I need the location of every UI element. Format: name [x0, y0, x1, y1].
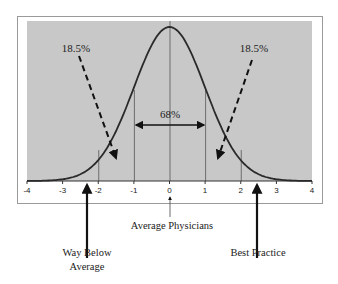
left-tail-percent-label: 18.5% [62, 42, 90, 54]
right-tail-percent-label: 18.5% [240, 42, 268, 54]
x-tick-label: 1 [203, 186, 208, 195]
x-tick-label: 3 [274, 186, 279, 195]
x-tick-label: -2 [95, 186, 103, 195]
x-tick-label: 0 [167, 186, 172, 195]
way-below-average-label-line1: Way Below [62, 247, 111, 258]
x-tick-label: -3 [59, 186, 67, 195]
center-percent-label: 68% [160, 108, 180, 120]
x-tick-label: -1 [130, 186, 138, 195]
best-practice-label: Best Practice [230, 247, 285, 258]
bell-curve-chart: -4 -3 -2 -1 0 1 2 3 4 68% 18.5% 18.5% Av… [0, 0, 338, 284]
x-tick-label: 4 [310, 186, 315, 195]
x-tick-label: 2 [239, 186, 244, 195]
x-tick-label: -4 [23, 186, 31, 195]
way-below-average-label-line2: Average [70, 261, 105, 272]
average-physicians-label: Average Physicians [131, 220, 213, 231]
